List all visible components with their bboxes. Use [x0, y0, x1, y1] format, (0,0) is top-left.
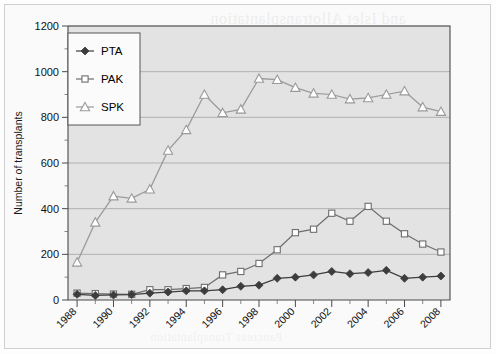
x-tick-label-2006: 2006: [381, 305, 406, 330]
x-tick-label-1998: 1998: [235, 305, 260, 330]
y-tick-label-1000: 1000: [35, 66, 59, 78]
x-tick-label-1992: 1992: [126, 305, 151, 330]
x-tick-label-1988: 1988: [54, 305, 79, 330]
data-point-PAK-2001: [310, 226, 316, 232]
y-tick-label-0: 0: [53, 294, 59, 306]
y-tick-label-200: 200: [41, 248, 59, 260]
x-tick-label-2004: 2004: [345, 305, 370, 330]
x-tick-label-1990: 1990: [90, 305, 115, 330]
y-axis-ticks: 020040060080010001200: [35, 20, 68, 306]
legend-label-PTA: PTA: [101, 45, 123, 57]
line-chart: 020040060080010001200 198819901992199419…: [0, 0, 496, 354]
y-tick-label-600: 600: [41, 157, 59, 169]
x-tick-label-2008: 2008: [417, 305, 442, 330]
y-tick-label-1200: 1200: [35, 20, 59, 32]
data-point-PAK-2008: [438, 249, 444, 255]
data-point-PAK-2000: [292, 230, 298, 236]
x-tick-label-2000: 2000: [272, 305, 297, 330]
y-tick-label-800: 800: [41, 111, 59, 123]
data-point-PAK-2007: [420, 241, 426, 247]
data-point-PAK-2006: [401, 231, 407, 237]
data-point-PAK-1999: [274, 247, 280, 253]
x-axis-ticks: 1988199019921994199619982000200220042006…: [54, 300, 443, 330]
data-point-PAK-1998: [256, 260, 262, 266]
x-tick-label-2002: 2002: [308, 305, 333, 330]
x-tick-label-1996: 1996: [199, 305, 224, 330]
x-tick-label-1994: 1994: [163, 305, 188, 330]
data-point-PAK-1996: [220, 272, 226, 278]
legend-label-SPK: SPK: [101, 101, 124, 113]
y-tick-label-400: 400: [41, 203, 59, 215]
data-point-PAK-2005: [383, 218, 389, 224]
figure-root: and Islet Allotransplantation transplant…: [0, 0, 496, 354]
chart-legend: PTAPAKSPK: [68, 33, 140, 125]
data-point-PAK-1997: [238, 268, 244, 274]
y-axis-label: Number of transplants: [12, 111, 24, 214]
data-point-PAK-2004: [365, 203, 371, 209]
legend-marker-PAK: [82, 76, 88, 82]
data-point-PAK-2002: [329, 210, 335, 216]
y-axis-title: Number of transplants: [12, 111, 24, 214]
data-point-PAK-2003: [347, 218, 353, 224]
legend-label-PAK: PAK: [101, 73, 123, 85]
